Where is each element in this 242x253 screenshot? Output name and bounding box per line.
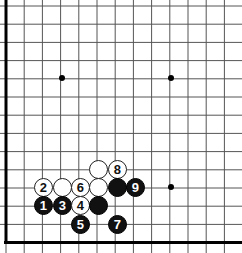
star-point-left xyxy=(59,75,65,81)
board-grid xyxy=(0,0,242,253)
star-point-center xyxy=(168,75,174,81)
go-board-diagram: 826913457 xyxy=(0,0,242,253)
star-point-lower xyxy=(168,184,174,190)
